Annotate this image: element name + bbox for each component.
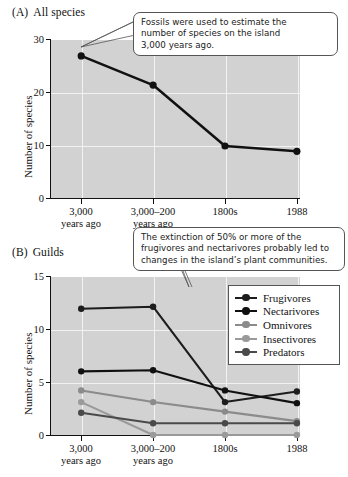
panel-b-point-frugivores-2 — [150, 303, 156, 309]
panel-b-point-nectarivores-3 — [222, 387, 228, 393]
legend-marker-icon — [235, 333, 257, 344]
legend-marker-icon — [235, 319, 257, 330]
legend-marker-icon — [235, 306, 257, 317]
panel-a-point-2 — [150, 81, 157, 88]
legend-item-label: Insectivores — [263, 333, 316, 345]
panel-b-point-insectivores-1 — [78, 399, 84, 405]
panel-b-point-omnivores-1 — [78, 387, 84, 393]
legend-item-insectivores[interactable]: Insectivores — [235, 332, 332, 346]
panel-a-point-4 — [293, 148, 300, 155]
panel-guilds: (B)Guilds Number of species 15 10 5 0 3,… — [0, 240, 348, 477]
panel-b-point-nectarivores-1 — [78, 368, 84, 374]
legend-item-frugivores[interactable]: Frugivores — [235, 291, 332, 305]
panel-b-legend: FrugivoresNectarivoresOmnivoresInsectivo… — [228, 285, 340, 365]
legend-marker-icon — [235, 347, 257, 358]
legend-item-label: Frugivores — [263, 292, 311, 304]
panel-b-callout: The extinction of 50% or more of the fru… — [133, 227, 345, 271]
panel-a-point-3 — [221, 142, 228, 149]
panel-b-point-nectarivores-4 — [294, 400, 300, 406]
panel-b-point-frugivores-3 — [222, 399, 228, 405]
legend-item-label: Predators — [263, 346, 305, 358]
legend-item-predators[interactable]: Predators — [235, 345, 332, 359]
panel-b-line-nectarivores — [81, 370, 297, 403]
legend-item-omnivores[interactable]: Omnivores — [235, 318, 332, 332]
panel-b-point-insectivores-2 — [150, 432, 156, 438]
panel-b-point-nectarivores-2 — [150, 367, 156, 373]
panel-b-point-frugivores-1 — [78, 306, 84, 312]
figure-species-decline: (A)All species Number of species 30 20 1… — [0, 0, 348, 477]
panel-b-point-predators-1 — [78, 409, 84, 415]
panel-b-point-omnivores-3 — [222, 408, 228, 414]
panel-b-point-predators-2 — [150, 420, 156, 426]
panel-a-callout: Fossils were used to estimate the number… — [133, 12, 338, 56]
panel-b-point-insectivores-4 — [294, 432, 300, 438]
legend-item-nectarivores[interactable]: Nectarivores — [235, 305, 332, 319]
legend-marker-icon — [235, 292, 257, 303]
panel-a-point-1 — [78, 52, 85, 59]
panel-b-point-frugivores-4 — [294, 388, 300, 394]
legend-item-label: Omnivores — [263, 319, 312, 331]
panel-b-point-predators-4 — [294, 420, 300, 426]
panel-b-line-predators — [81, 413, 297, 424]
legend-item-label: Nectarivores — [263, 305, 319, 317]
panel-b-point-omnivores-2 — [150, 399, 156, 405]
panel-b-point-predators-3 — [222, 420, 228, 426]
panel-all-species: (A)All species Number of species 30 20 1… — [0, 0, 348, 240]
panel-a-line-all-species — [81, 56, 297, 151]
panel-b-point-insectivores-3 — [222, 432, 228, 438]
